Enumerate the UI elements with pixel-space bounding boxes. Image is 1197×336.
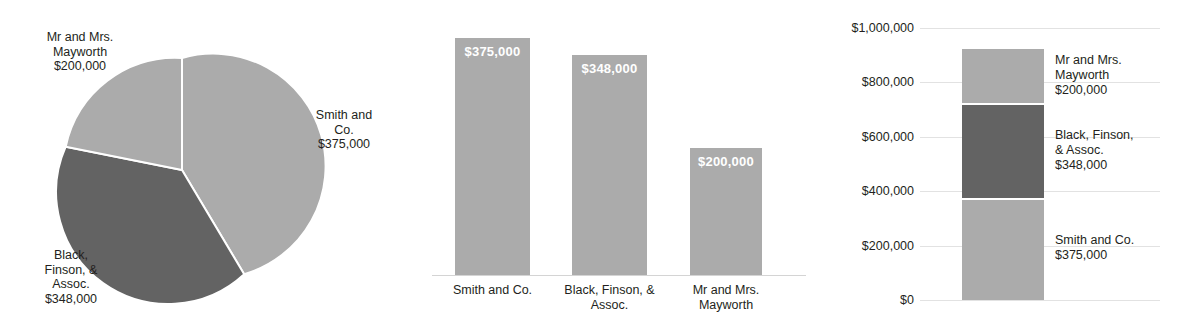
stacked-bar-column bbox=[962, 49, 1044, 300]
stacked-gridline-1000000 bbox=[920, 28, 1160, 29]
bar-value-label-mayworth: $200,000 bbox=[690, 154, 762, 169]
bar-column-mayworth: $200,000 bbox=[690, 148, 762, 275]
figure-canvas: Mr and Mrs. Mayworth $200,000 Smith and … bbox=[0, 0, 1197, 336]
bar-chart: $375,000 Smith and Co. $348,000 Black, F… bbox=[400, 0, 820, 336]
bar-column-black-finson: $348,000 bbox=[572, 55, 647, 275]
stacked-segment-black-finson bbox=[962, 105, 1044, 198]
bar-category-label-black-finson: Black, Finson, & Assoc. bbox=[548, 283, 671, 313]
bar-rect-smith bbox=[455, 38, 530, 275]
bar-category-label-mayworth: Mr and Mrs. Mayworth bbox=[672, 283, 780, 313]
bar-value-label-smith: $375,000 bbox=[455, 44, 530, 59]
stacked-ytick-600000: $600,000 bbox=[862, 130, 914, 144]
pie-label-smith: Smith and Co. $375,000 bbox=[292, 108, 396, 152]
stacked-bar-chart: $1,000,000 $800,000 $600,000 $400,000 $2… bbox=[820, 0, 1197, 336]
pie-chart: Mr and Mrs. Mayworth $200,000 Smith and … bbox=[0, 0, 400, 336]
bar-rect-black-finson bbox=[572, 55, 647, 275]
stacked-series-label-mayworth: Mr and Mrs. Mayworth $200,000 bbox=[1055, 53, 1122, 98]
stacked-series-label-black-finson: Black, Finson, & Assoc. $348,000 bbox=[1055, 128, 1134, 173]
pie-label-mayworth: Mr and Mrs. Mayworth $200,000 bbox=[14, 30, 146, 74]
stacked-ytick-200000: $200,000 bbox=[862, 239, 914, 253]
bar-chart-baseline bbox=[432, 275, 806, 276]
stacked-segment-smith bbox=[962, 200, 1044, 300]
bar-category-label-smith: Smith and Co. bbox=[439, 283, 546, 298]
bar-column-smith: $375,000 bbox=[455, 38, 530, 275]
stacked-series-label-smith: Smith and Co. $375,000 bbox=[1055, 233, 1134, 263]
stacked-ytick-0: $0 bbox=[900, 293, 914, 307]
stacked-ytick-1000000: $1,000,000 bbox=[851, 21, 914, 35]
stacked-gridline-0 bbox=[920, 300, 1160, 301]
stacked-ytick-800000: $800,000 bbox=[862, 75, 914, 89]
bar-value-label-black-finson: $348,000 bbox=[572, 61, 647, 76]
pie-label-black-finson: Black, Finson, & Assoc. $348,000 bbox=[16, 248, 126, 306]
stacked-ytick-400000: $400,000 bbox=[862, 184, 914, 198]
stacked-segment-mayworth bbox=[962, 49, 1044, 103]
